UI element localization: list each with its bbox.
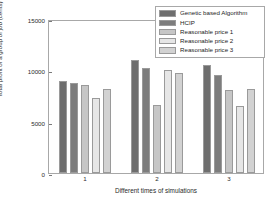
bar xyxy=(103,89,111,173)
bar xyxy=(92,98,100,173)
legend-item[interactable]: Reasonable price 1 xyxy=(159,27,261,36)
bar xyxy=(247,89,255,173)
bar xyxy=(236,106,244,173)
legend-swatch xyxy=(159,29,176,36)
legend-label: Reasonable price 1 xyxy=(180,29,233,35)
legend-item[interactable]: HCIP xyxy=(159,18,261,27)
y-axis-label: Total profit of a group of job (cents) xyxy=(0,1,3,97)
bar xyxy=(225,90,233,173)
x-tick-label: 1 xyxy=(83,176,86,182)
bar xyxy=(131,60,139,173)
y-tick-label: 15000 xyxy=(28,18,45,24)
y-tick-label: 0 xyxy=(42,172,45,178)
bar xyxy=(81,85,89,173)
bar xyxy=(153,105,161,173)
legend-label: Genetic based Algorithm xyxy=(180,10,247,16)
legend-item[interactable]: Reasonable price 3 xyxy=(159,46,261,55)
bar xyxy=(142,68,150,173)
legend-swatch xyxy=(159,47,176,54)
x-tick-label: 2 xyxy=(155,176,158,182)
legend-label: Reasonable price 2 xyxy=(180,38,233,44)
legend-item[interactable]: Genetic based Algorithm xyxy=(159,9,261,18)
bar xyxy=(203,65,211,173)
legend-label: HCIP xyxy=(180,20,195,26)
legend-swatch xyxy=(159,10,176,17)
y-tick-mark xyxy=(49,175,52,176)
legend-swatch xyxy=(159,20,176,27)
x-axis-label: Different times of simulations xyxy=(48,188,264,194)
bar xyxy=(164,70,172,173)
y-tick-mark xyxy=(49,21,52,22)
bar-chart-figure: Total profit of a group of job (cents) D… xyxy=(0,0,270,203)
bar xyxy=(70,83,78,173)
y-tick-mark xyxy=(49,72,52,73)
legend-item[interactable]: Reasonable price 2 xyxy=(159,37,261,46)
bar xyxy=(175,73,183,173)
chart-legend: Genetic based AlgorithmHCIPReasonable pr… xyxy=(155,6,265,58)
bar xyxy=(59,81,67,173)
legend-swatch xyxy=(159,38,176,45)
x-tick-label: 3 xyxy=(227,176,230,182)
bar xyxy=(214,75,222,173)
y-tick-mark xyxy=(49,124,52,125)
legend-label: Reasonable price 3 xyxy=(180,47,233,53)
y-tick-label: 5000 xyxy=(31,121,45,127)
y-tick-label: 10000 xyxy=(28,69,45,75)
